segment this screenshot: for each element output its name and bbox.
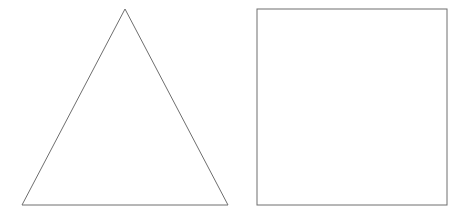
- shapes-drawing: [0, 0, 466, 214]
- canvas-background: [0, 0, 466, 214]
- shapes-canvas: [0, 0, 466, 214]
